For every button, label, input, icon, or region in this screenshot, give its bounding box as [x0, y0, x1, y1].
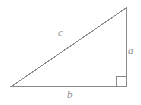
vertical-leg-label: a	[128, 45, 134, 56]
hypotenuse-label: c	[58, 27, 63, 38]
right-angle-marker-icon	[116, 76, 126, 86]
right-triangle-figure: c a b	[0, 0, 141, 105]
triangle-outline	[12, 8, 126, 86]
base-label: b	[67, 89, 73, 100]
